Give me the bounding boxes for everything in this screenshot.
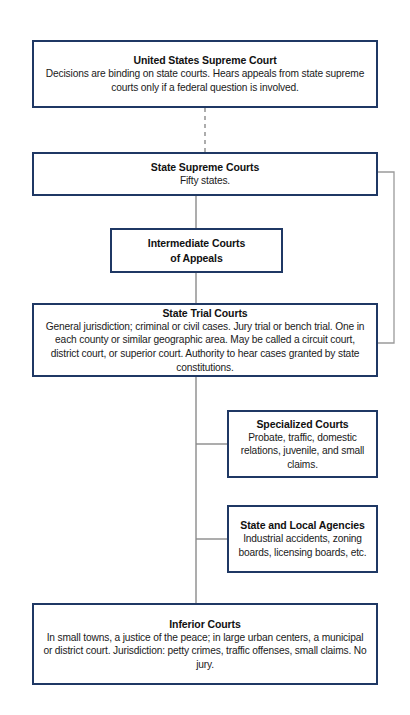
node-body: General jurisdiction; criminal or civil … bbox=[41, 320, 369, 374]
node-inferior-courts: Inferior Courts In small towns, a justic… bbox=[32, 603, 378, 685]
node-title: Inferior Courts bbox=[169, 617, 240, 631]
node-specialized-courts: Specialized Courts Probate, traffic, dom… bbox=[227, 410, 378, 478]
node-title: State and Local Agencies bbox=[240, 518, 364, 532]
node-title: State Trial Courts bbox=[162, 306, 247, 320]
node-state-and-local-agencies: State and Local Agencies Industrial acci… bbox=[227, 505, 378, 573]
node-title: Specialized Courts bbox=[256, 417, 348, 431]
node-title-line-2: of Appeals bbox=[170, 251, 222, 266]
node-intermediate-courts-of-appeals: Intermediate Courts of Appeals bbox=[110, 228, 283, 273]
node-body: Industrial accidents, zoning boards, lic… bbox=[236, 532, 369, 559]
node-title: Intermediate Courts bbox=[148, 236, 245, 251]
node-body: Fifty states. bbox=[180, 174, 230, 188]
node-state-trial-courts: State Trial Courts General jurisdiction;… bbox=[32, 303, 378, 377]
node-state-supreme-courts: State Supreme Courts Fifty states. bbox=[32, 152, 378, 196]
node-title: United States Supreme Court bbox=[133, 53, 276, 67]
node-body: Decisions are binding on state courts. H… bbox=[41, 67, 369, 94]
court-system-diagram: United States Supreme Court Decisions ar… bbox=[0, 0, 410, 715]
connector-state-supreme-bypass bbox=[378, 172, 394, 343]
node-united-states-supreme-court: United States Supreme Court Decisions ar… bbox=[32, 40, 378, 108]
node-body: In small towns, a justice of the peace; … bbox=[41, 631, 369, 672]
node-title: State Supreme Courts bbox=[151, 160, 259, 174]
node-body: Probate, traffic, domestic relations, ju… bbox=[236, 431, 369, 472]
